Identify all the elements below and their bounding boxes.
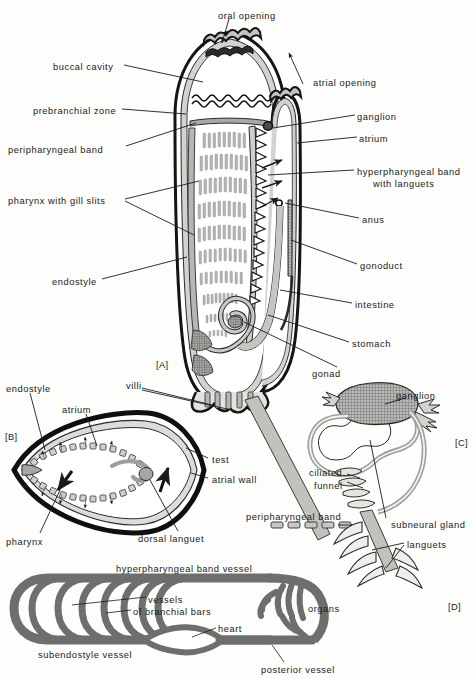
panel-tag-c: [C] <box>455 438 468 448</box>
label-hyperpharyngeal-band-vessel: hyperpharyngeal band vessel <box>116 564 252 575</box>
panel-b-drawing <box>14 413 204 533</box>
label-gonad: gonad <box>312 369 341 380</box>
label-ciliated-funnel-2: funnel <box>314 481 343 492</box>
label-heart: heart <box>218 624 242 635</box>
label-buccal-cavity: buccal cavity <box>53 62 113 73</box>
leader-atrium <box>297 137 357 143</box>
leader-posterior-vessel <box>272 645 284 662</box>
heart-chamber <box>145 627 222 652</box>
leader-atrial-opening <box>289 53 303 84</box>
label-ganglion-a: ganglion <box>357 112 397 123</box>
label-organs: organs <box>308 604 340 615</box>
label-dorsal-languet: dorsal languet <box>138 534 204 545</box>
label-gonoduct: gonoduct <box>360 261 403 272</box>
label-endostyle-a: endostyle <box>52 277 97 288</box>
label-atrial-opening: atrial opening <box>313 78 377 89</box>
label-languets: languets <box>407 540 447 551</box>
figure-drawing <box>0 0 476 678</box>
anus-opening <box>276 200 282 206</box>
panel-a-drawing <box>175 28 301 412</box>
label-oral-opening: oral opening <box>218 11 276 22</box>
panel-tag-a: [A] <box>156 360 169 370</box>
label-subendostyle-vessel: subendostyle vessel <box>38 650 132 661</box>
label-vessels: vessels <box>148 595 183 606</box>
label-posterior-vessel: posterior vessel <box>261 665 335 676</box>
ganglion-mass <box>336 383 418 425</box>
label-atrial-wall: atrial wall <box>212 475 257 486</box>
label-ganglion-c: ganglion <box>396 391 436 402</box>
label-subneural-gland: subneural gland <box>391 520 465 531</box>
label-prebranchial-zone: prebranchial zone <box>33 106 116 117</box>
label-pharynx-b: pharynx <box>6 537 43 548</box>
label-pharynx-with-gill-slits: pharynx with gill slits <box>8 196 105 207</box>
ganglion-blob <box>263 122 272 130</box>
label-anus: anus <box>362 215 384 226</box>
label-of-branchial-bars: of branchial bars <box>133 607 211 618</box>
label-atrium-b: atrium <box>62 405 91 416</box>
label-hyperpharyngeal-band: hyperpharyngeal band <box>357 167 461 178</box>
leader-endostyle <box>102 257 187 279</box>
gonad-mass <box>228 316 242 328</box>
label-hyperpharyngeal-band-2: with languets <box>373 179 434 190</box>
label-ciliated-funnel: ciliated <box>309 468 342 479</box>
organ-vessel-branches <box>260 584 305 636</box>
leader-subneural-gland <box>370 440 386 518</box>
gill-slit-row <box>203 132 246 148</box>
dorsal-languet-head <box>139 468 153 481</box>
gill-slit-row <box>200 271 242 285</box>
gonoduct-tube <box>288 200 292 276</box>
subneural-gland-inner <box>318 420 390 460</box>
label-intestine: intestine <box>355 300 395 311</box>
label-villi: villi <box>126 381 142 392</box>
panel-tag-b: [B] <box>5 432 18 442</box>
label-peripharyngeal-band-c: peripharyngeal band <box>246 512 341 523</box>
anatomy-figure: oral opening buccal cavity prebranchial … <box>0 0 476 678</box>
label-stomach: stomach <box>352 339 391 350</box>
label-test: test <box>212 455 229 466</box>
panel-tag-d: [D] <box>448 602 461 612</box>
label-endostyle-b: endostyle <box>6 384 51 395</box>
label-peripharyngeal-band: peripharyngeal band <box>8 145 103 156</box>
label-atrium-a: atrium <box>359 134 388 145</box>
